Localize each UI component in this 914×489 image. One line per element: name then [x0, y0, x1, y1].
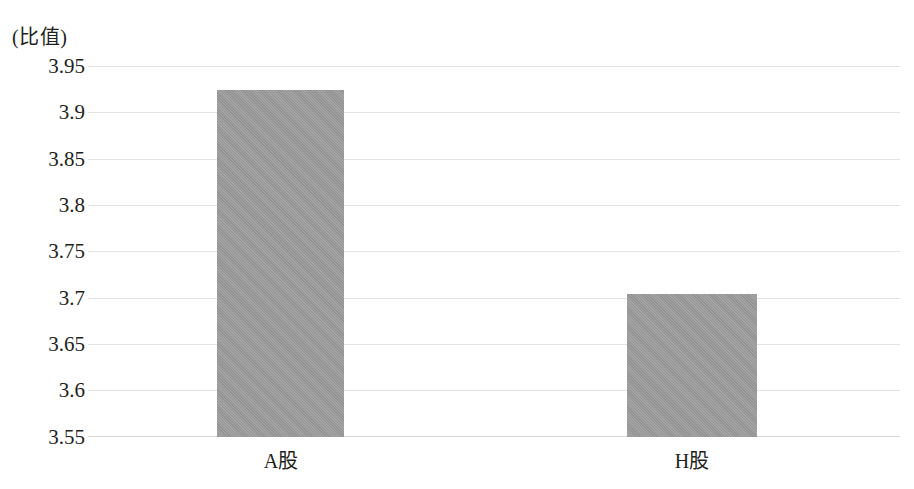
y-tick-label: 3.65	[5, 334, 85, 355]
gridline	[88, 344, 900, 345]
y-tick-label: 3.9	[5, 102, 85, 123]
gridline	[88, 251, 900, 252]
y-tick-label: 3.75	[5, 241, 85, 262]
y-axis-tick-labels: 3.95 3.9 3.85 3.8 3.75 3.7 3.65 3.6 3.55	[0, 0, 85, 489]
gridline	[88, 390, 900, 391]
gridline	[88, 159, 900, 160]
bar-h-shares[interactable]	[627, 294, 757, 437]
y-tick-label: 3.85	[5, 149, 85, 170]
axis-baseline	[88, 436, 900, 437]
bar-a-shares[interactable]	[217, 90, 344, 437]
x-tick-label-a-shares: A股	[264, 451, 298, 471]
y-tick-label: 3.6	[5, 380, 85, 401]
y-tick-label: 3.55	[5, 427, 85, 448]
gridline	[88, 205, 900, 206]
bar-chart: (比值) 3.95 3.9 3.85 3.8 3.75 3.7 3.65 3.6…	[0, 0, 914, 489]
gridline	[88, 298, 900, 299]
plot-area	[88, 66, 900, 437]
y-tick-label: 3.8	[5, 195, 85, 216]
gridline	[88, 66, 900, 67]
y-tick-label: 3.7	[5, 288, 85, 309]
x-tick-label-h-shares: H股	[675, 451, 709, 471]
gridline	[88, 112, 900, 113]
y-tick-label: 3.95	[5, 56, 85, 77]
